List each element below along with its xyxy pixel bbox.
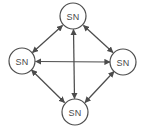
node-top[interactable]: SN <box>60 3 86 29</box>
edge-left-bottom <box>32 70 65 103</box>
edge-left-top <box>33 26 63 53</box>
edge-bottom-right <box>85 72 114 103</box>
node-label-top: SN <box>67 12 80 22</box>
node-label-right: SN <box>117 58 130 68</box>
node-label-bottom: SN <box>69 108 82 118</box>
diagram-canvas: SN SN SN SN <box>0 0 143 129</box>
edge-top-bottom <box>74 30 75 99</box>
node-right[interactable]: SN <box>110 49 136 75</box>
nodes-group: SN SN SN SN <box>9 3 136 125</box>
edge-top-right <box>84 26 114 53</box>
edges-group <box>32 26 115 103</box>
node-label-left: SN <box>16 57 29 67</box>
node-bottom[interactable]: SN <box>62 99 88 125</box>
node-link-graph: SN SN SN SN <box>0 0 143 129</box>
edge-left-right <box>36 62 111 63</box>
node-left[interactable]: SN <box>9 48 35 74</box>
